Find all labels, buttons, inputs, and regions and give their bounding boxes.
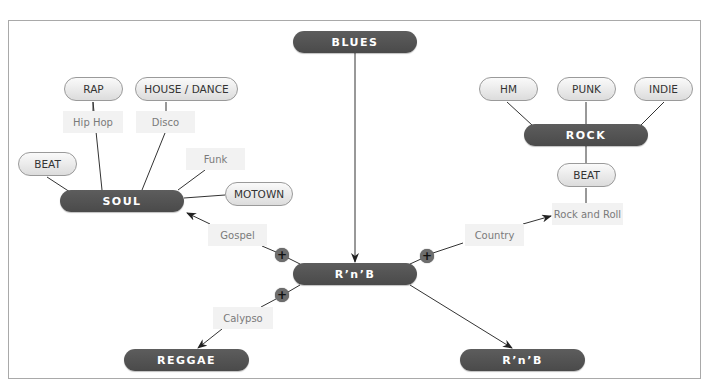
genre-rap-label: RAP: [83, 83, 103, 95]
plus-circle-icon[interactable]: +: [275, 248, 289, 262]
genre-beat-right[interactable]: BEAT: [557, 163, 616, 187]
genre-beat-left-label: BEAT: [34, 158, 61, 170]
hub-reggae-label: REGGAE: [157, 354, 216, 367]
label-hip-hop: Hip Hop: [63, 111, 123, 133]
label-gospel-text: Gospel: [220, 230, 254, 241]
genre-indie-label: INDIE: [649, 83, 678, 95]
hub-rock[interactable]: ROCK: [524, 124, 648, 146]
genre-house-dance-label: HOUSE / DANCE: [144, 83, 228, 95]
hub-soul-label: SOUL: [102, 195, 141, 208]
hub-rnb-bottom-label: R’n’B: [502, 354, 543, 367]
genre-motown-label: MOTOWN: [234, 188, 284, 200]
hub-blues-label: BLUES: [332, 36, 379, 49]
genre-hm[interactable]: HM: [479, 77, 538, 101]
label-calypso: Calypso: [213, 307, 273, 329]
genre-punk-label: PUNK: [572, 83, 601, 95]
plus-glyph: +: [422, 249, 432, 263]
plus-glyph: +: [277, 248, 287, 262]
label-disco-text: Disco: [152, 117, 179, 128]
genre-indie[interactable]: INDIE: [634, 77, 693, 101]
label-hip-hop-text: Hip Hop: [73, 117, 113, 128]
label-rock-and-roll: Rock and Roll: [552, 203, 623, 225]
label-country-text: Country: [475, 230, 515, 241]
genre-rap[interactable]: RAP: [64, 77, 123, 101]
genre-punk[interactable]: PUNK: [557, 77, 616, 101]
label-country: Country: [465, 224, 524, 246]
hub-reggae[interactable]: REGGAE: [124, 349, 249, 371]
plus-circle-icon[interactable]: +: [275, 288, 289, 302]
hub-rnb-bottom[interactable]: R’n’B: [460, 349, 585, 371]
hub-rnb-center-label: R’n’B: [335, 268, 376, 281]
hub-soul[interactable]: SOUL: [60, 190, 184, 212]
label-funk: Funk: [186, 148, 245, 170]
label-rock-and-roll-text: Rock and Roll: [554, 209, 621, 220]
plus-circle-icon[interactable]: +: [420, 249, 434, 263]
genre-motown[interactable]: MOTOWN: [225, 182, 293, 206]
hub-blues[interactable]: BLUES: [293, 31, 417, 53]
label-gospel: Gospel: [208, 224, 267, 246]
hub-rock-label: ROCK: [566, 129, 606, 142]
genre-hm-label: HM: [500, 83, 517, 95]
plus-glyph: +: [277, 288, 287, 302]
label-calypso-text: Calypso: [223, 313, 262, 324]
genre-house-dance[interactable]: HOUSE / DANCE: [135, 77, 238, 101]
label-funk-text: Funk: [204, 154, 228, 165]
label-disco: Disco: [136, 111, 195, 133]
hub-rnb-center[interactable]: R’n’B: [293, 263, 417, 285]
genre-beat-right-label: BEAT: [573, 169, 600, 181]
genre-beat-left[interactable]: BEAT: [18, 152, 77, 176]
